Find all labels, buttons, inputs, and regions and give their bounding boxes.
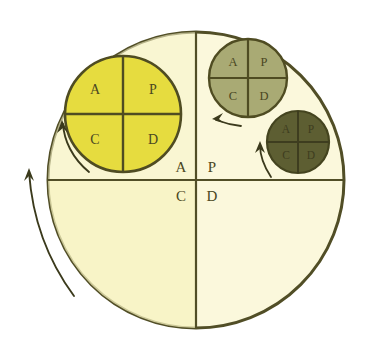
large-yellow-label-d: D <box>148 132 158 147</box>
large-yellow-label-c: C <box>90 132 99 147</box>
outer-label-d: D <box>207 188 218 204</box>
medium-olive-pdca-cycle: A P C D <box>208 38 288 118</box>
dark-olive-label-p: P <box>308 123 314 135</box>
outer-label-a: A <box>176 159 187 175</box>
dark-olive-label-d: D <box>307 149 315 161</box>
large-yellow-label-a: A <box>90 82 101 97</box>
outer-label-p: P <box>208 159 216 175</box>
medium-olive-label-d: D <box>259 89 268 103</box>
medium-olive-label-p: P <box>261 55 268 69</box>
dark-olive-label-a: A <box>282 123 291 135</box>
pdca-diagram: A P C D A P C D A P C D <box>0 0 386 348</box>
pdca-diagram-canvas: A P C D A P C D A P C D <box>0 0 386 348</box>
dark-olive-label-c: C <box>282 149 290 161</box>
medium-olive-label-c: C <box>229 89 237 103</box>
medium-olive-label-a: A <box>228 55 237 69</box>
outer-label-c: C <box>176 188 186 204</box>
large-yellow-label-p: P <box>149 82 157 97</box>
dark-olive-pdca-cycle: A P C D <box>266 110 330 174</box>
